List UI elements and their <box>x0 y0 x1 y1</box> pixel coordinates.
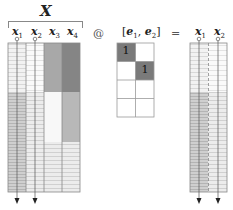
arrow-down-icon <box>15 198 20 204</box>
arrow-down-icon <box>216 198 221 204</box>
selector-cell-2-2: 1 <box>136 63 154 76</box>
arrow-down-icon <box>197 198 202 204</box>
diagram-graphics <box>0 0 233 210</box>
result-matrix <box>190 43 227 192</box>
selector-cell-1-1: 1 <box>117 44 135 57</box>
arrow-down-icon <box>33 198 38 204</box>
matrix-x <box>8 43 80 192</box>
